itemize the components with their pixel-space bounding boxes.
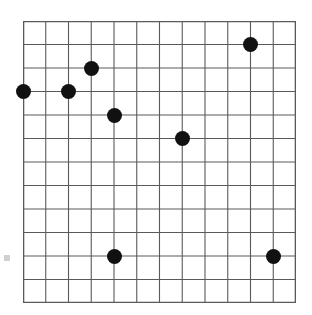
data-point xyxy=(61,84,76,99)
scatter-plot-figure xyxy=(0,0,312,315)
axis-tick-artifact xyxy=(4,255,10,261)
data-point xyxy=(107,249,122,264)
plot-area xyxy=(23,21,296,303)
data-point xyxy=(107,108,122,123)
data-point xyxy=(84,61,99,76)
data-point xyxy=(266,249,281,264)
data-points-layer xyxy=(23,21,296,303)
data-point xyxy=(175,131,190,146)
data-point xyxy=(16,84,31,99)
data-point xyxy=(243,37,258,52)
